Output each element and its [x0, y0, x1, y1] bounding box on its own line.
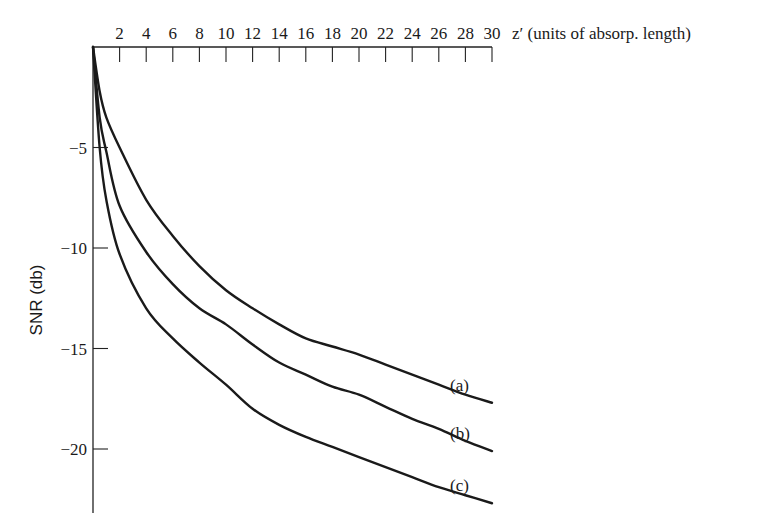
curves: [93, 47, 492, 503]
curve-label-b: (b): [450, 424, 470, 443]
x-tick-label: 18: [324, 24, 341, 43]
x-tick-label: 12: [244, 24, 261, 43]
curve-c: [93, 47, 492, 503]
x-tick-label: 24: [404, 24, 422, 43]
x-axis-title: z′ (units of absorp. length): [512, 24, 691, 43]
y-tick-label: −20: [60, 440, 87, 459]
x-tick-label: 26: [430, 24, 447, 43]
x-tick-label: 28: [457, 24, 474, 43]
x-tick-label: 6: [169, 24, 178, 43]
y-axis-title: SNR (db): [27, 265, 46, 336]
x-tick-label: 10: [218, 24, 235, 43]
x-tick-label: 14: [271, 24, 289, 43]
curve-a: [93, 47, 492, 403]
y-tick-label: −5: [69, 139, 87, 158]
labels: (a)(b)(c): [450, 376, 470, 496]
x-tick-label: 16: [297, 24, 314, 43]
curve-b: [93, 47, 492, 451]
snr-chart: 24681012141618202224262830−5−10−15−20z′ …: [0, 0, 773, 530]
x-tick-label: 2: [115, 24, 124, 43]
x-tick-label: 22: [377, 24, 394, 43]
x-tick-label: 4: [142, 24, 151, 43]
curve-label-a: (a): [450, 376, 469, 395]
x-tick-label: 8: [195, 24, 204, 43]
curve-label-c: (c): [450, 476, 469, 495]
y-tick-label: −10: [60, 239, 87, 258]
y-tick-label: −15: [60, 340, 87, 359]
x-tick-label: 20: [351, 24, 368, 43]
x-tick-label: 30: [484, 24, 501, 43]
